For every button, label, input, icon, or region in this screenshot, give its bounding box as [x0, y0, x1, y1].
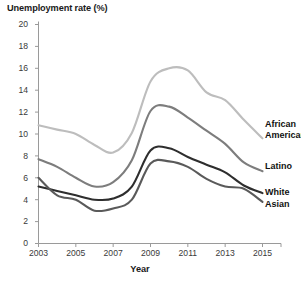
series-label-line1: Latino — [265, 161, 292, 171]
y-tick-label: 20 — [6, 19, 28, 29]
series-label-african-american: AfricanAmerican — [265, 119, 301, 140]
series-line-white — [39, 147, 263, 201]
chart-axes — [39, 22, 282, 244]
y-tick-label: 16 — [6, 63, 28, 73]
series-label-line1: African — [265, 119, 296, 129]
x-tick-label: 2003 — [22, 248, 56, 258]
series-label-line1: Asian — [265, 199, 290, 209]
x-axis-title: Year — [0, 264, 280, 274]
y-tick-label: 2 — [6, 216, 28, 226]
axis-tick-marks — [35, 25, 281, 248]
y-tick-label: 6 — [6, 173, 28, 183]
x-tick-label: 2015 — [246, 248, 280, 258]
x-tick-label: 2007 — [96, 248, 130, 258]
line-chart-plot — [0, 0, 301, 284]
y-tick-label: 14 — [6, 85, 28, 95]
x-tick-label: 2011 — [171, 248, 205, 258]
y-tick-label: 18 — [6, 41, 28, 51]
chart-figure: Unemployment rate (%) 02468101214161820 … — [0, 0, 301, 284]
series-label-latino: Latino — [265, 161, 292, 172]
y-tick-label: 8 — [6, 151, 28, 161]
y-tick-label: 4 — [6, 195, 28, 205]
series-label-asian: Asian — [265, 199, 290, 210]
x-tick-label: 2009 — [134, 248, 168, 258]
series-label-white: White — [265, 187, 290, 198]
chart-series-group — [39, 67, 263, 211]
y-tick-label: 10 — [6, 129, 28, 139]
series-line-asian — [39, 160, 263, 211]
series-label-line1: White — [265, 187, 290, 197]
x-tick-label: 2005 — [59, 248, 93, 258]
x-tick-label: 2013 — [208, 248, 242, 258]
y-tick-label: 12 — [6, 107, 28, 117]
series-label-line2: American — [265, 130, 301, 140]
